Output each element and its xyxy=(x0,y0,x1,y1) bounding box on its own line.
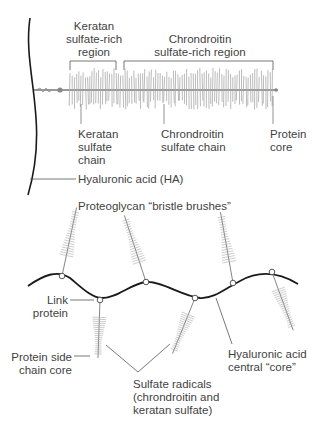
link-protein-node xyxy=(230,280,236,286)
line: keratan sulfate) xyxy=(133,404,219,417)
line: Link xyxy=(20,294,68,307)
line: Protein side xyxy=(4,351,72,364)
line: Hyaluronic acid xyxy=(228,348,307,361)
bristle-brushes-title: Proteoglycan “bristle brushes” xyxy=(78,200,231,213)
chondroitin-chain-label: Chrondroitin sulfate chain xyxy=(161,128,226,154)
line: Sulfate radicals xyxy=(133,378,219,391)
line: sulfate-rich region xyxy=(140,46,260,59)
line: Chrondroitin xyxy=(140,33,260,46)
link-protein-node xyxy=(269,269,275,275)
sulfate-chains xyxy=(69,68,272,110)
line: Keratan xyxy=(78,128,118,141)
hyaluronic-acid-wave xyxy=(28,274,298,298)
chondroitin-region-bracket xyxy=(124,61,273,70)
line: sulfate xyxy=(78,141,118,154)
link-protein-node xyxy=(192,295,198,301)
protein-core-label: Protein core xyxy=(270,128,306,154)
keratan-region-bracket xyxy=(70,61,116,70)
hyaluronic-acid-curve xyxy=(28,18,37,195)
core-knob xyxy=(57,87,62,92)
line: protein xyxy=(20,307,68,320)
line: chain xyxy=(78,154,118,167)
link-protein-node xyxy=(59,273,65,279)
keratan-chain-label: Keratan sulfate chain xyxy=(78,128,118,167)
line: (chrondroitin and xyxy=(133,391,219,404)
line: region xyxy=(60,46,128,59)
line: sulfate chain xyxy=(161,141,226,154)
link-protein-node xyxy=(143,279,149,285)
link-protein-label: Link protein xyxy=(20,294,68,320)
line: Protein xyxy=(270,128,306,141)
line: Keratan xyxy=(60,20,128,33)
keratan-region-label: Keratan sulfate-rich region xyxy=(60,20,128,59)
line: core xyxy=(270,141,306,154)
link-protein-node xyxy=(97,297,103,303)
bristle-brushes xyxy=(59,208,295,358)
protein-side-chain-core-label: Protein side chain core xyxy=(4,351,72,377)
hyaluronic-acid-label: Hyaluronic acid (HA) xyxy=(78,173,183,186)
line: central “core” xyxy=(228,361,307,374)
hyaluronic-central-core-label: Hyaluronic acid central “core” xyxy=(228,348,307,374)
line: sulfate-rich xyxy=(60,33,128,46)
line: Chrondroitin xyxy=(161,128,226,141)
sulfate-radicals-label: Sulfate radicals (chrondroitin and kerat… xyxy=(133,378,219,417)
chondroitin-region-label: Chrondroitin sulfate-rich region xyxy=(140,33,260,59)
line: chain core xyxy=(4,364,72,377)
